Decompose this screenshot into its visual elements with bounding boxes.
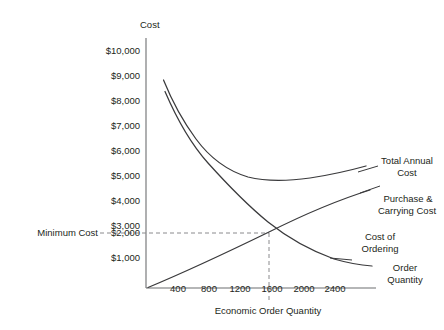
x-axis-title-line2: Quantity xyxy=(376,274,434,286)
series-purchase-carrying-cost xyxy=(148,190,370,288)
y-tick-label: $5,000 xyxy=(60,170,140,182)
series-label-total-annual-cost-line2: Cost xyxy=(372,167,442,179)
y-tick-label: $7,000 xyxy=(60,120,140,132)
leader-purchase-carrying-cost xyxy=(360,186,380,193)
eoq-chart-figure: Cost $10,000 $9,000 $8,000 $7,000 $6,000… xyxy=(0,0,444,330)
x-axis-title-line1: Order xyxy=(376,262,434,274)
series-total-annual-cost xyxy=(164,80,367,181)
minimum-cost-label: Minimum Cost xyxy=(5,227,98,239)
economic-order-quantity-label: Economic Order Quantity xyxy=(188,305,348,317)
y-tick-label: $1,000 xyxy=(60,252,140,264)
series-label-total-annual-cost-line1: Total Annual xyxy=(372,155,442,167)
y-tick-label: $4,000 xyxy=(60,195,140,207)
series-label-purchase-carrying-line1: Purchase & xyxy=(372,193,444,205)
series-label-cost-of-ordering-line1: Cost of xyxy=(352,231,408,243)
series-label-cost-of-ordering-line2: Ordering xyxy=(352,243,408,255)
y-tick-label: $6,000 xyxy=(60,145,140,157)
y-tick-label: $10,000 xyxy=(60,45,140,57)
series-cost-of-ordering xyxy=(165,92,372,267)
y-tick-label: $8,000 xyxy=(60,95,140,107)
y-tick-label: $9,000 xyxy=(60,70,140,82)
y-axis-title: Cost xyxy=(140,19,200,31)
series-label-purchase-carrying-line2: Carrying Cost xyxy=(370,205,444,217)
x-tick-label: 2400 xyxy=(315,283,355,295)
